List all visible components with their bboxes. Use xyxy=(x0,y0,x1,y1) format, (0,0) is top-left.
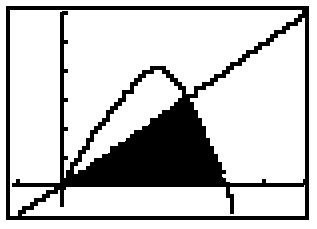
calculator-screenshot xyxy=(0,0,317,229)
y-axis-overlay xyxy=(60,12,64,207)
graph-plot xyxy=(0,0,317,229)
x-axis-overlay xyxy=(12,183,304,187)
